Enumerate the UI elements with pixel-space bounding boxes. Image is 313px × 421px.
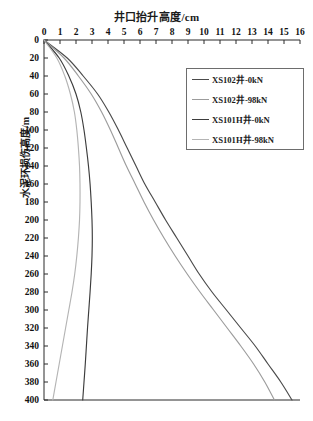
y-tick-label: 0	[34, 35, 39, 45]
legend-item: XS102井-0kN	[187, 69, 303, 89]
legend-swatch-icon	[192, 99, 209, 100]
legend-item: XS102井-98kN	[187, 89, 303, 109]
y-tick-label: 20	[30, 53, 40, 63]
x-tick-label: 15	[279, 27, 289, 37]
x-tick-label: 1	[58, 27, 63, 37]
chart-legend: XS102井-0kN XS102井-98kN XS101H井-0kN XS101…	[186, 68, 304, 150]
x-tick-label: 10	[199, 27, 209, 37]
x-tick-label: 12	[231, 27, 241, 37]
y-tick-label: 160	[25, 179, 40, 189]
x-tick-label: 0	[42, 27, 47, 37]
x-tick-label: 14	[263, 27, 273, 37]
x-tick-label: 7	[154, 27, 159, 37]
plot-area: 0123456789101112131415160204060801001201…	[0, 0, 313, 421]
series-line	[44, 40, 80, 400]
x-tick-label: 5	[122, 27, 127, 37]
y-tick-label: 280	[25, 287, 40, 297]
legend-label: XS101H井-98kN	[212, 133, 274, 145]
chart-container: 井口抬升高度/cm 水泥环损伤高度/m 01234567891011121314…	[0, 0, 313, 421]
y-tick-label: 120	[25, 143, 40, 153]
y-tick-label: 240	[25, 251, 40, 261]
x-tick-label: 8	[170, 27, 175, 37]
x-tick-label: 6	[138, 27, 143, 37]
legend-swatch-icon	[192, 79, 209, 80]
legend-label: XS102井-0kN	[212, 73, 263, 85]
series-line	[44, 40, 92, 400]
y-tick-label: 40	[30, 71, 40, 81]
legend-swatch-icon	[192, 139, 209, 140]
x-tick-label: 11	[216, 27, 225, 37]
y-tick-label: 360	[25, 359, 40, 369]
x-tick-label: 9	[186, 27, 191, 37]
legend-label: XS101H井-0kN	[212, 113, 270, 125]
y-tick-label: 340	[25, 341, 40, 351]
y-tick-label: 60	[30, 89, 40, 99]
y-tick-label: 220	[25, 233, 40, 243]
x-tick-label: 13	[247, 27, 257, 37]
y-tick-label: 180	[25, 197, 40, 207]
y-tick-label: 140	[25, 161, 40, 171]
legend-item: XS101H井-0kN	[187, 109, 303, 129]
y-tick-label: 200	[25, 215, 40, 225]
y-tick-label: 320	[25, 323, 40, 333]
y-tick-label: 380	[25, 377, 40, 387]
legend-item: XS101H井-98kN	[187, 129, 303, 149]
x-tick-label: 16	[295, 27, 305, 37]
y-tick-label: 400	[25, 395, 40, 405]
y-tick-label: 100	[25, 125, 40, 135]
legend-label: XS102井-98kN	[212, 93, 267, 105]
y-tick-label: 260	[25, 269, 40, 279]
x-tick-label: 4	[106, 27, 111, 37]
x-tick-label: 2	[74, 27, 79, 37]
y-tick-label: 80	[30, 107, 40, 117]
legend-swatch-icon	[192, 119, 209, 120]
y-tick-label: 300	[25, 305, 40, 315]
x-tick-label: 3	[90, 27, 95, 37]
